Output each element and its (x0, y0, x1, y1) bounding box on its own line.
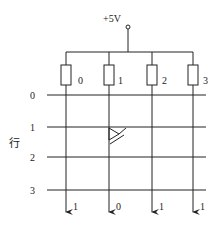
resistor-icon (147, 65, 157, 85)
supply-terminal-icon (126, 25, 130, 29)
column-label: 0 (78, 75, 83, 86)
column-0: 0 1 (61, 52, 83, 212)
column-1: 1 0 (104, 52, 123, 212)
supply-label: +5V (103, 13, 122, 24)
resistor-icon (104, 65, 114, 85)
resistor-icon (188, 65, 198, 85)
column-output: 0 (116, 201, 121, 212)
column-label: 3 (203, 75, 208, 86)
column-label: 1 (118, 75, 123, 86)
resistor-icon (61, 65, 71, 85)
column-output: 1 (73, 201, 78, 212)
row-axis-label: 行 (9, 137, 20, 149)
diode-icon (109, 128, 126, 144)
row-3: 3 (30, 185, 206, 196)
row-label: 1 (30, 122, 35, 133)
row-label: 3 (30, 185, 35, 196)
row-0: 0 (30, 90, 206, 101)
row-1: 1 (30, 122, 206, 133)
column-output: 1 (159, 201, 164, 212)
column-label: 2 (162, 75, 167, 86)
diode-rom-diagram: +5V 0 1 1 0 2 1 3 1 0 1 2 (0, 0, 222, 225)
column-output: 1 (200, 201, 205, 212)
row-label: 0 (30, 90, 35, 101)
column-2: 2 1 (147, 52, 167, 212)
row-2: 2 (30, 152, 206, 163)
column-3: 3 1 (188, 52, 208, 212)
row-label: 2 (30, 152, 35, 163)
